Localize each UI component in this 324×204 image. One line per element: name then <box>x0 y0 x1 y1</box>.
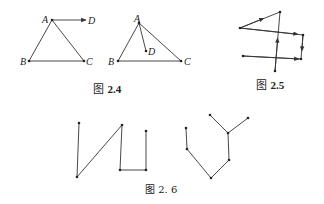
label-B-left: B <box>20 56 26 67</box>
label-C-right: C <box>184 56 191 67</box>
caption-prefix: 图 <box>145 184 155 195</box>
caption-prefix: 图 <box>93 83 104 96</box>
figure-2-6-right <box>186 115 248 178</box>
caption-prefix: 图 <box>256 79 267 92</box>
figure-2-5-points <box>239 11 305 73</box>
label-A-left: A <box>41 14 49 25</box>
figure-2-4-left <box>29 20 86 61</box>
caption-number: 2.4 <box>108 83 122 95</box>
figure-2-6-right-points <box>185 114 250 180</box>
figure-2-5 <box>240 12 303 71</box>
label-B-right: B <box>108 56 114 67</box>
label-D-left: D <box>87 15 96 26</box>
label-C-left: C <box>86 56 93 67</box>
caption-number: 2.5 <box>271 79 285 91</box>
diagram-canvas: A D B C A D B C <box>0 0 324 204</box>
label-D-right: D <box>147 46 156 57</box>
caption-figure-2-4: 图 2.4 <box>93 80 121 96</box>
label-A-right: A <box>133 13 141 24</box>
caption-figure-2-5: 图 2.5 <box>256 76 284 92</box>
figure-2-6-left <box>77 123 146 177</box>
caption-number: 2. 6 <box>158 184 177 195</box>
caption-figure-2-6: 图 2. 6 <box>145 181 177 196</box>
